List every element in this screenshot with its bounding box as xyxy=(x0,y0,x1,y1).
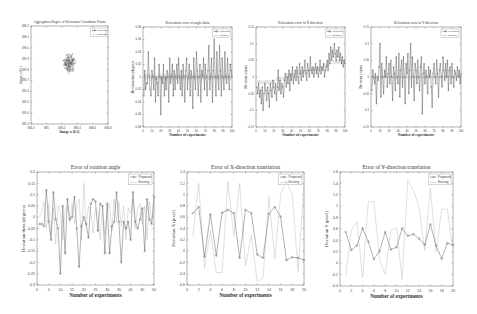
y-tick-label: 495.7 xyxy=(22,78,29,82)
y-tick-label: -0.1 xyxy=(364,108,369,112)
scatter-plot: Aggregation Degree of Relocation Coordin… xyxy=(0,0,130,140)
y-tick-label: -0.1 xyxy=(249,108,254,112)
x-tick-label: 0 xyxy=(186,288,188,292)
x-tick-label: 4 xyxy=(209,288,211,292)
y-tick-label: 1.2 xyxy=(180,182,185,186)
x-tick-label: 90 xyxy=(450,129,454,133)
y-tick-label: 0.2 xyxy=(30,170,35,174)
x-tick-label: 40 xyxy=(129,288,133,292)
x-tick-label: 0 xyxy=(339,289,341,293)
x-tick-label: 40 xyxy=(290,129,294,133)
legend-label: Proposed xyxy=(220,30,231,33)
x-axis-label: Number of experiments xyxy=(219,292,271,298)
legend-label: Existing xyxy=(449,34,458,37)
y-tick-label: 495.8 xyxy=(22,68,29,72)
x-tick-label: 20 xyxy=(387,129,391,133)
legend-label: Existing xyxy=(220,34,229,37)
y-tick-label: 0.6 xyxy=(333,227,338,231)
y-tick-label: -0.04 xyxy=(135,100,142,104)
y-tick-label: -0.02 xyxy=(135,87,142,91)
y-tick-label: -0.15 xyxy=(248,125,255,129)
y-tick-label: 0.15 xyxy=(364,25,370,29)
x-tick-label: 16 xyxy=(279,288,283,292)
x-tick-label: 4 xyxy=(362,289,364,293)
y-tick-label: -0.2 xyxy=(332,273,338,277)
y-tick-label: -0.4 xyxy=(179,272,185,276)
x-tick-label: 50 xyxy=(414,129,418,133)
x-tick-label: 30 xyxy=(281,129,285,133)
y-tick-label: 0.8 xyxy=(333,216,338,220)
y-tick-label: 495.9 xyxy=(22,57,29,61)
y-tick-label: -0.6 xyxy=(179,283,185,287)
y-axis-label: Deviation X (pixel) xyxy=(171,210,176,247)
legend: ProposedExisting xyxy=(441,29,459,37)
y-tick-label: -0.08 xyxy=(135,125,142,129)
x-tick-label: 20 xyxy=(272,129,276,133)
y-tick-label: 0.4 xyxy=(180,227,185,231)
chart-rotation-angle-error: Error of rotation angle0.20.150.10.050-0… xyxy=(0,150,165,314)
y-axis-label: Deviation theta (degrees) xyxy=(21,205,26,253)
x-axis-label: Number of experiments xyxy=(69,292,121,298)
x-tick-label: 40 xyxy=(177,129,181,133)
plot-area xyxy=(31,26,108,124)
y-tick-label: 496.1 xyxy=(22,35,29,39)
y-tick-label: -0.2 xyxy=(179,261,185,265)
x-translation-plot: Error of X-direction translation1.41.210… xyxy=(160,150,320,314)
y-tick-label: 0.05 xyxy=(28,204,35,208)
legend-label: Existing xyxy=(438,180,449,184)
y-tick-label: 0.08 xyxy=(136,25,142,29)
y-tick-label: -0.05 xyxy=(248,92,255,96)
y-tick-label: 0.2 xyxy=(180,238,185,242)
y-tick-label: 0 xyxy=(139,75,141,79)
x-tick-label: 686.4 xyxy=(74,126,81,130)
x-tick-label: 80 xyxy=(326,129,330,133)
y-axis-label: Image y (0.1) xyxy=(19,66,23,84)
plot-area xyxy=(371,27,461,127)
x-tick-label: 80 xyxy=(441,129,445,133)
x-tick-label: 10 xyxy=(378,129,382,133)
legend-label: Proposed xyxy=(97,29,108,32)
y-tick-label: -0.4 xyxy=(332,284,338,288)
legend-label: Proposed xyxy=(438,175,451,179)
x-tick-label: 60 xyxy=(308,129,312,133)
x-tick-label: 10 xyxy=(58,288,62,292)
plot-area xyxy=(256,27,345,127)
y-tick-label: 0.02 xyxy=(136,62,142,66)
x-tick-label: 40 xyxy=(405,129,409,133)
x-tick-label: 45 xyxy=(140,288,144,292)
x-tick-label: 20 xyxy=(451,289,455,293)
y-axis-label: Deviation Y (pixel) xyxy=(324,210,329,247)
x-axis-label: Number of experiments xyxy=(282,133,319,137)
chart-title: Relocation error in Y direction xyxy=(394,21,438,25)
chart-title: Aggregation Degree of Relocation Coordin… xyxy=(33,20,106,24)
y-tick-label: 0.6 xyxy=(180,215,185,219)
y-tick-label: 0 xyxy=(183,249,185,253)
y-tick-label: 1.2 xyxy=(333,193,338,197)
x-tick-label: 70 xyxy=(317,129,321,133)
y-tick-label: 0.15 xyxy=(28,182,35,186)
x-error-plot: Relocation error in X direction0.150.10.… xyxy=(240,0,360,140)
x-tick-label: 90 xyxy=(222,129,226,133)
y-tick-label: 0.04 xyxy=(136,50,142,54)
y-tick-label: 1.4 xyxy=(333,182,338,186)
x-tick-label: 60 xyxy=(423,129,427,133)
y-tick-label: 0.05 xyxy=(364,58,370,62)
y-axis-label: Deviation y (mm) xyxy=(359,65,363,88)
y-tick-label: -0.25 xyxy=(27,272,35,276)
x-tick-label: 60 xyxy=(195,129,199,133)
x-tick-label: 50 xyxy=(299,129,303,133)
y-tick-label: -0.1 xyxy=(29,238,35,242)
legend: ProposedExisting xyxy=(428,174,451,185)
y-tick-label: 1.4 xyxy=(180,170,185,174)
y-tick-label: 0.1 xyxy=(365,42,369,46)
y-tick-label: 0.15 xyxy=(249,25,255,29)
x-tick-label: 16 xyxy=(428,289,432,293)
chart-y-translation-error: Error of Y-direction translation1.61.41.… xyxy=(310,150,477,314)
y-tick-label: 0.8 xyxy=(180,204,185,208)
y-tick-label: -0.05 xyxy=(363,92,370,96)
x-tick-label: 18 xyxy=(290,288,294,292)
legend-label: Existing xyxy=(333,34,342,37)
x-tick-label: 100 xyxy=(230,129,235,133)
x-tick-label: 50 xyxy=(186,129,190,133)
legend: ProposedExisting xyxy=(212,29,230,37)
